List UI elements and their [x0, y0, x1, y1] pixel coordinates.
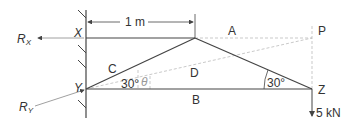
point-p-label: P [318, 24, 326, 38]
angle-theta-label: θ [141, 75, 148, 89]
dimension-1m: 1 m [88, 14, 195, 38]
load-label: 5 kN [316, 106, 341, 120]
angle-y-label: 30° [121, 77, 139, 91]
reaction-ry-label: RY [19, 100, 34, 115]
joint-z-label: Z [318, 83, 325, 97]
member-a-label: A [228, 24, 236, 38]
member-d-label: D [190, 66, 199, 80]
truss-diagram: 1 m RX RY X Y Z P A B C D 30° θ 30° 5 kN [0, 0, 352, 125]
angle-z-label: 30° [267, 76, 285, 90]
member-a [195, 38, 312, 89]
joint-x-label: X [73, 26, 83, 40]
reaction-rx-label: RX [17, 32, 32, 47]
dimension-label: 1 m [125, 15, 145, 29]
member-b-label: B [192, 93, 200, 107]
joint-y-label: Y [74, 81, 83, 95]
member-c-label: C [108, 62, 117, 76]
